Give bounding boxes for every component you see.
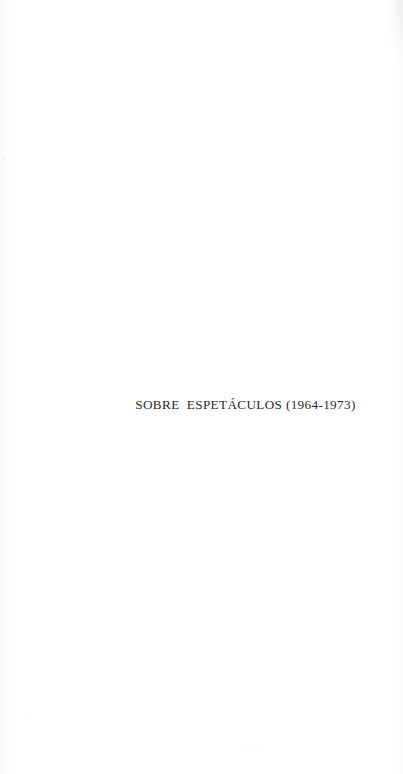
page-right-edge-shadow [396, 0, 403, 774]
scan-speck [2, 179, 4, 181]
part-title: SOBRE ESPETÁCULOS (1964-1973) [0, 397, 403, 412]
page-top-right-corner-shadow [373, 0, 403, 96]
scanned-page: SOBRE ESPETÁCULOS (1964-1973) [0, 0, 403, 774]
scan-speck [255, 748, 257, 750]
page-left-edge-shadow [0, 0, 14, 774]
scan-speck [246, 746, 248, 747]
scan-speck [28, 716, 30, 718]
scan-speck [3, 158, 5, 160]
